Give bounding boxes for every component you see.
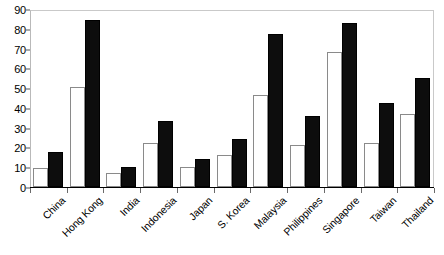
bar-group	[325, 11, 362, 187]
bar-series-2	[195, 159, 210, 187]
bar-group	[178, 11, 215, 187]
x-tick-mark	[397, 188, 398, 193]
bar-series-1	[400, 114, 415, 187]
x-tick-label: China	[40, 194, 68, 222]
bar-series-1	[70, 87, 85, 187]
bar-series-2	[158, 121, 173, 187]
bar-series-1	[217, 155, 232, 187]
x-tick-label: Indonesia	[138, 194, 178, 234]
bar-series-2	[342, 23, 357, 187]
bar-series-2	[305, 116, 320, 187]
x-tick-mark	[250, 188, 251, 193]
y-axis: 0102030405060708090	[0, 0, 30, 196]
bar-series-1	[143, 143, 158, 188]
bar-series-1	[33, 168, 48, 187]
x-tick-mark	[214, 188, 215, 193]
bar-chart: 0102030405060708090 ChinaHong KongIndiaI…	[0, 0, 444, 255]
bar-series-1	[290, 145, 305, 187]
x-tick-mark	[434, 188, 435, 193]
x-axis-labels: ChinaHong KongIndiaIndonesiaJapanS. Kore…	[30, 194, 444, 255]
x-tick-label: Japan	[186, 194, 214, 222]
x-tick-mark	[177, 188, 178, 193]
bar-series-1	[106, 173, 121, 187]
y-tick-label: 80	[14, 24, 26, 35]
x-tick-label: Taiwan	[367, 194, 398, 225]
x-tick-mark	[324, 188, 325, 193]
x-tick-label: Singapore	[320, 194, 362, 236]
x-tick-label: S. Korea	[215, 194, 252, 231]
bar-group	[31, 11, 68, 187]
x-tick-mark	[103, 188, 104, 193]
bar-series-2	[85, 20, 100, 187]
bar-series-1	[327, 52, 342, 187]
bar-series-2	[268, 34, 283, 187]
y-tick-label: 50	[14, 84, 26, 95]
bar-series-2	[379, 103, 394, 187]
y-tick-label: 20	[14, 143, 26, 154]
x-tick-label: India	[117, 194, 141, 218]
x-tick-mark	[140, 188, 141, 193]
bar-group	[398, 11, 435, 187]
y-tick-label: 70	[14, 44, 26, 55]
y-tick-label: 40	[14, 103, 26, 114]
x-tick-label: Thailand	[399, 194, 435, 230]
plot-area	[30, 10, 434, 188]
y-tick-label: 30	[14, 123, 26, 134]
y-tick-label: 10	[14, 163, 26, 174]
bar-group	[141, 11, 178, 187]
x-tick-mark	[67, 188, 68, 193]
x-tick-mark	[361, 188, 362, 193]
bar-series-1	[180, 167, 195, 187]
bar-series-2	[48, 152, 63, 187]
bar-series-1	[253, 95, 268, 187]
bar-series-2	[232, 139, 247, 187]
bars-layer	[31, 11, 433, 187]
bar-group	[104, 11, 141, 187]
bar-series-2	[415, 78, 430, 187]
x-tick-mark	[287, 188, 288, 193]
y-tick-label: 90	[14, 5, 26, 16]
x-tick-mark	[30, 188, 31, 193]
bar-group	[215, 11, 252, 187]
bar-group	[362, 11, 399, 187]
bar-series-1	[364, 143, 379, 188]
bar-group	[251, 11, 288, 187]
bar-group	[68, 11, 105, 187]
bar-group	[288, 11, 325, 187]
bar-series-2	[121, 167, 136, 187]
y-tick-label: 60	[14, 64, 26, 75]
